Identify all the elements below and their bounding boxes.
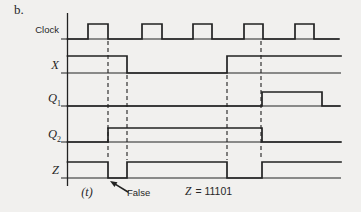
- signal-row-q1: Q1: [48, 91, 340, 108]
- signal-label-q2: Q2: [48, 127, 61, 144]
- false-pointer-arrow: [110, 181, 128, 192]
- signal-row-x-input: X: [50, 56, 341, 73]
- figure-label: b.: [14, 2, 24, 17]
- z-equation: Z= 11101: [185, 185, 232, 197]
- timing-diagram-canvas: b. Clock X Q1 Q2 Z (t) False Z= 11101: [0, 0, 361, 212]
- time-axis-label: (t): [81, 185, 92, 199]
- false-annotation: False: [127, 187, 150, 198]
- signal-row-z-output: Z: [52, 162, 341, 178]
- figure-b-timing-diagram: b. Clock X Q1 Q2 Z (t) False Z= 11101: [0, 0, 361, 212]
- signal-row-clock: Clock: [35, 24, 339, 39]
- signal-row-q2: Q2: [48, 127, 341, 144]
- signal-label-clock: Clock: [35, 24, 59, 35]
- signal-label-x: X: [50, 58, 60, 72]
- signal-label-q1: Q1: [48, 91, 61, 108]
- signal-label-z: Z: [52, 163, 60, 177]
